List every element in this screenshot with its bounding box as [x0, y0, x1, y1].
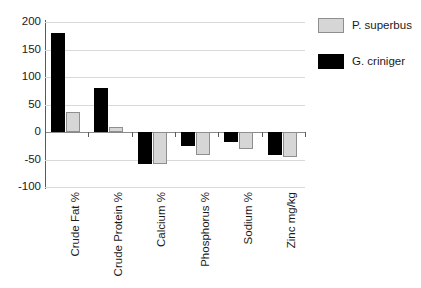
y-tick-label: 0: [1, 126, 41, 137]
bar-group-zinc: [262, 22, 305, 187]
bar-g-criniger[interactable]: [224, 132, 238, 142]
bar-group-crude-protein: [88, 22, 131, 187]
category-tick: [218, 132, 219, 137]
y-tick-label: 50: [1, 99, 41, 110]
legend-item-p-superbus[interactable]: P. superbus: [318, 14, 418, 36]
x-axis-tick-labels: Crude Fat % Crude Protein % Calcium % Ph…: [45, 190, 305, 286]
y-axis-tick-labels: 200 150 100 50 0 -50 -100: [0, 22, 41, 187]
y-tick-label: -50: [1, 154, 41, 165]
y-tick-label: 100: [1, 71, 41, 82]
bar-p-superbus[interactable]: [109, 127, 123, 132]
y-tick-label: -100: [1, 181, 41, 192]
category-tick: [132, 132, 133, 137]
bar-g-criniger[interactable]: [138, 132, 152, 164]
x-tick-label-crude-protein: Crude Protein %: [112, 192, 124, 276]
x-tick-label-calcium: Calcium %: [155, 192, 167, 247]
gridline-minus-100: [45, 187, 305, 188]
bar-p-superbus[interactable]: [239, 132, 253, 149]
category-tick: [262, 132, 263, 137]
x-tick-label-sodium: Sodium %: [242, 192, 254, 244]
bar-g-criniger[interactable]: [94, 88, 108, 132]
bar-group-calcium: [132, 22, 175, 187]
category-tick-end: [305, 132, 306, 137]
bar-g-criniger[interactable]: [268, 132, 282, 155]
bar-p-superbus[interactable]: [153, 132, 167, 164]
bar-g-criniger[interactable]: [51, 33, 65, 132]
bar-group-crude-fat: [45, 22, 88, 187]
category-tick: [45, 132, 46, 137]
legend-swatch-icon: [318, 18, 344, 33]
bar-p-superbus[interactable]: [196, 132, 210, 155]
legend-item-g-criniger[interactable]: G. criniger: [318, 50, 418, 72]
x-tick-label-phosphorus: Phosphorus %: [199, 192, 211, 267]
legend-label: P. superbus: [352, 19, 412, 31]
bar-group-sodium: [218, 22, 261, 187]
category-tick: [88, 132, 89, 137]
bar-p-superbus[interactable]: [66, 112, 80, 132]
y-tick-label: 150: [1, 44, 41, 55]
x-tick-label-crude-fat: Crude Fat %: [69, 192, 81, 257]
chart-legend: P. superbus G. criniger: [318, 14, 418, 86]
legend-swatch-icon: [318, 54, 344, 69]
legend-label: G. criniger: [352, 55, 405, 67]
y-tick-label: 200: [1, 16, 41, 27]
bar-g-criniger[interactable]: [181, 132, 195, 146]
x-tick-label-zinc: Zinc mg/kg: [285, 192, 297, 248]
plot-area: [45, 22, 305, 187]
category-tick: [175, 132, 176, 137]
bar-chart-figure: 200 150 100 50 0 -50 -100: [0, 0, 421, 288]
bar-group-phosphorus: [175, 22, 218, 187]
bar-p-superbus[interactable]: [283, 132, 297, 157]
